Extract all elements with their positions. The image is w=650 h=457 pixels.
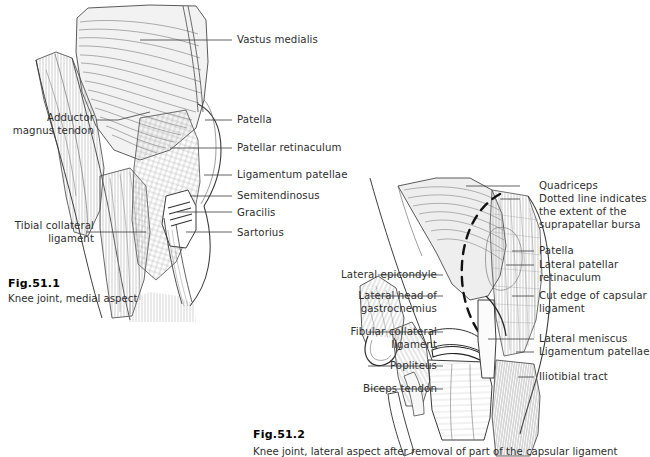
label-ligamentum-patellae-fig2: Ligamentum patellae <box>539 345 650 358</box>
caption-number-fig-51-2: Fig.51.2 <box>253 428 305 441</box>
caption-text-fig-51-1: Knee joint, medial aspect <box>8 293 137 304</box>
caption-number-fig-51-1: Fig.51.1 <box>8 277 60 290</box>
caption-text-fig-51-2: Knee joint, lateral aspect after removal… <box>253 446 618 457</box>
iliotibial-tract-shape <box>492 360 540 456</box>
label-popliteus: Popliteus <box>265 359 437 372</box>
label-lateral-patellar-retinaculum: Lateral patellar retinaculum <box>539 258 618 284</box>
label-lateral-head-of-gastrocnemius: Lateral head of gastrocnemius <box>265 289 437 315</box>
label-patellar-retinaculum: Patellar retinaculum <box>237 141 342 154</box>
patella-contour <box>198 104 221 206</box>
label-ligamentum-patellae-fig1: Ligamentum patellae <box>237 168 348 181</box>
label-tibial-collateral-ligament: Tibial collateral ligament <box>0 219 94 245</box>
label-semitendinosus: Semitendinosus <box>237 189 320 202</box>
label-patella-fig1: Patella <box>237 113 272 126</box>
label-adductor-magnus-tendon: Adductor magnus tendon <box>0 111 94 137</box>
label-gracilis: Gracilis <box>237 206 276 219</box>
fig-51-2-drawing <box>360 178 550 456</box>
label-fibular-collateral-ligament: Fibular collateral ligament <box>265 325 437 351</box>
label-iliotibial-tract: Iliotibial tract <box>539 370 608 383</box>
label-sartorius: Sartorius <box>237 226 284 239</box>
anatomy-plate-page: Adductor magnus tendon Tibial collateral… <box>0 0 650 457</box>
label-suprapatellar-bursa-note: Dotted line indicates the extent of the … <box>539 192 647 232</box>
label-lateral-meniscus: Lateral meniscus <box>539 332 627 345</box>
label-lateral-epicondyle: Lateral epicondyle <box>265 268 437 281</box>
label-biceps-tendon: Biceps tendon <box>265 382 437 395</box>
label-patella-fig2: Patella <box>539 244 574 257</box>
label-quadriceps: Quadriceps <box>539 179 598 192</box>
fig-51-1-drawing <box>36 5 232 322</box>
label-cut-edge-of-capsular-ligament: Cut edge of capsular ligament <box>539 289 647 315</box>
label-vastus-medialis: Vastus medialis <box>237 33 318 46</box>
